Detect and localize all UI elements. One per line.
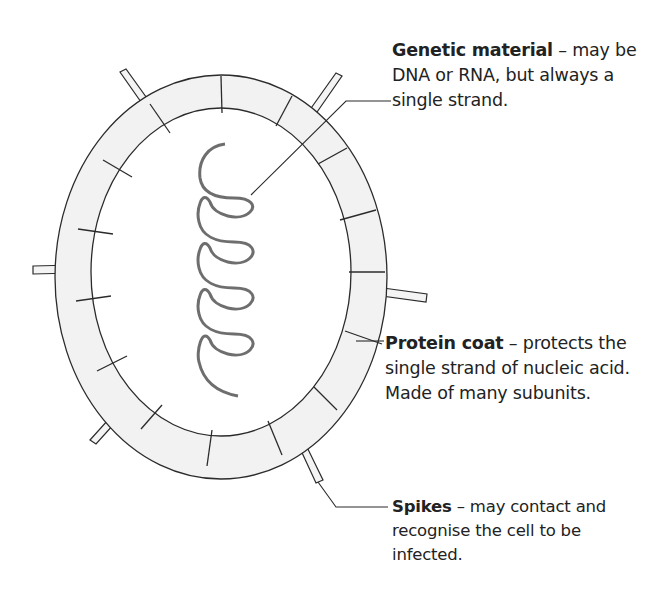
label-protein-coat-title: Protein coat: [385, 333, 503, 353]
spike-top-right: [309, 73, 342, 115]
spike-right: [382, 288, 427, 302]
label-line: recognise the cell to be: [392, 521, 581, 540]
protein-coat: [55, 75, 387, 479]
label-line: infected.: [392, 545, 463, 564]
label-separator: –: [553, 40, 572, 60]
label-spikes-title: Spikes: [392, 497, 452, 516]
label-line: may contact and: [470, 497, 606, 516]
label-genetic-material: Genetic material – may be DNA or RNA, bu…: [392, 38, 671, 113]
label-protein-coat: Protein coat – protects the single stran…: [385, 331, 670, 406]
label-separator: –: [503, 333, 522, 353]
label-line: protects the: [523, 333, 627, 353]
label-line: may be: [572, 40, 636, 60]
protein-coat-ring: [55, 75, 387, 479]
label-line: single strand.: [392, 90, 508, 110]
leader-spikes: [318, 482, 388, 507]
label-line: single strand of nucleic acid.: [385, 358, 630, 378]
label-spikes: Spikes – may contact and recognise the c…: [392, 495, 662, 567]
label-separator: –: [452, 497, 470, 516]
nucleic-acid-helix: [198, 144, 253, 396]
label-line: Made of many subunits.: [385, 383, 591, 403]
label-genetic-material-title: Genetic material: [392, 40, 553, 60]
label-line: DNA or RNA, but always a: [392, 65, 614, 85]
